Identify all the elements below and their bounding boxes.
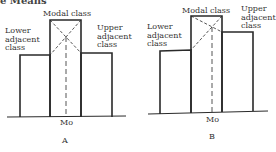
bar-upper-b [222,32,253,112]
bar-lower-a [20,55,50,117]
bar-modal-b [191,16,222,113]
bar-lower-b [160,50,191,114]
lower-adjacent-label-b: Lower adjacent class [147,23,182,49]
lower-adjacent-label-a: Lower adjacent class [5,27,40,53]
modal-class-label-a: Modal class [43,10,91,19]
mode-label-b: Mo [206,115,219,124]
lower-line-3: class [147,40,182,49]
caption-a: A [62,136,68,145]
histogram-diagrams [0,0,276,152]
diagonal-b1 [191,16,222,32]
diagonal-b2 [191,16,222,50]
bar-modal-a [50,20,81,117]
mode-label-a: Mo [60,118,73,127]
baseline-a [7,116,126,117]
caption-b: B [209,132,215,141]
upper-adjacent-label-a: Upper adjacent class [97,24,132,50]
upper-line-3: class [241,22,276,31]
lower-line-3: class [5,44,40,53]
upper-adjacent-label-b: Upper adjacent class [241,5,276,31]
modal-class-label-b: Modal class [182,7,230,16]
baseline-b [148,111,268,114]
upper-line-3: class [97,41,132,50]
bar-upper-a [81,53,112,117]
